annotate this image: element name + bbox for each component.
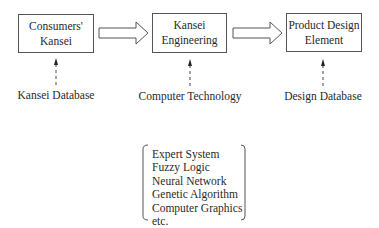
input-design-database: Design Database [273, 90, 373, 102]
node-kansei-engineering: Kansei Engineering [152, 13, 227, 53]
technology-item: Expert System [152, 148, 242, 161]
technology-item: Genetic Algorithm [152, 188, 242, 201]
technology-list: Expert System Fuzzy Logic Neural Network… [152, 148, 242, 228]
technology-item: Computer Graphics [152, 202, 242, 215]
node-label: Engineering [161, 33, 217, 48]
input-computer-technology: Computer Technology [130, 90, 250, 102]
node-label: Element [288, 33, 359, 48]
left-bracket [143, 145, 148, 220]
block-arrow-1 [99, 22, 148, 44]
node-label: Kansei [161, 18, 217, 33]
node-product-design-element: Product Design Element [286, 13, 362, 52]
node-label: Consumers' [29, 19, 83, 34]
technology-item: etc. [152, 215, 242, 228]
node-consumers-kansei: Consumers' Kansei [18, 14, 94, 53]
block-arrow-2 [233, 22, 282, 44]
node-label: Product Design [288, 18, 359, 33]
input-kansei-database: Kansei Database [6, 89, 106, 101]
technology-item: Fuzzy Logic [152, 161, 242, 174]
arrowhead-3 [321, 59, 325, 66]
arrowhead-1 [54, 58, 58, 65]
arrowhead-2 [188, 59, 192, 66]
node-label: Kansei [29, 34, 83, 49]
technology-item: Neural Network [152, 175, 242, 188]
